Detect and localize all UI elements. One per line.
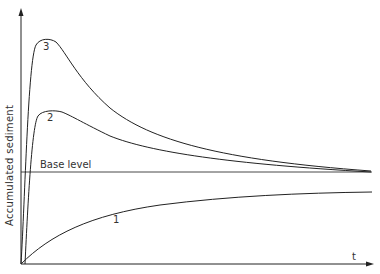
curve-3	[21, 39, 371, 264]
curve-1-label: 1	[113, 214, 119, 225]
curve-2	[25, 111, 371, 264]
curve-1	[21, 192, 372, 264]
y-axis-label: Accumulated sediment	[4, 105, 15, 226]
base-level-label: Base level	[40, 159, 91, 170]
curve-3-label: 3	[43, 41, 49, 52]
sediment-diagram: 3 2 1 Base level t Accumulated sediment	[0, 0, 380, 274]
curve-2-label: 2	[47, 112, 53, 123]
x-axis-label: t	[352, 251, 356, 262]
